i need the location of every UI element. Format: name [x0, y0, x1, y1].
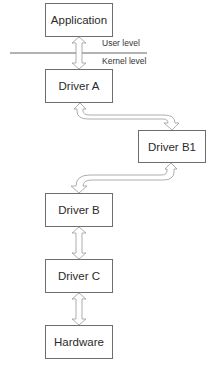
node-label: Driver C: [58, 270, 100, 282]
node-label: Driver B1: [148, 141, 196, 153]
node-label: Hardware: [54, 336, 104, 348]
curved-arrow-driver-a-driver-b1: [74, 103, 179, 130]
node-driver-b: Driver B: [45, 193, 113, 227]
double-arrow-driver-b-driver-c: [72, 227, 86, 259]
node-driver-c: Driver C: [45, 259, 113, 293]
node-driver-a: Driver A: [45, 69, 113, 103]
node-hardware: Hardware: [45, 325, 113, 359]
node-driver-b1: Driver B1: [138, 130, 206, 163]
kernel-level-label: Kernel level: [102, 56, 146, 66]
double-arrow-driver-c-hardware: [72, 293, 86, 325]
curved-arrow-driver-b1-driver-b: [71, 163, 177, 193]
node-label: Application: [51, 14, 107, 26]
node-label: Driver B: [58, 204, 100, 216]
user-level-label: User level: [102, 38, 140, 48]
node-application: Application: [45, 3, 113, 37]
node-label: Driver A: [59, 80, 100, 92]
